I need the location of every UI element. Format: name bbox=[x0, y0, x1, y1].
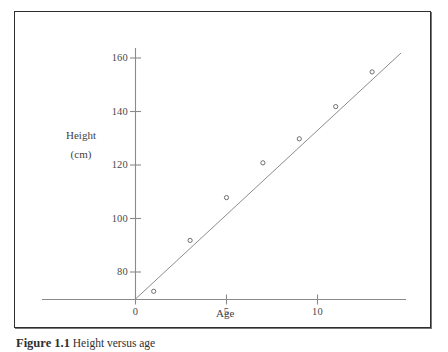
x-tick-label-0: 0 bbox=[133, 307, 138, 318]
figure-caption: Figure 1.1 Height versus age bbox=[16, 336, 436, 352]
y-tick-label-80: 80 bbox=[117, 267, 128, 278]
y-axis-title-line1: Height bbox=[47, 126, 115, 145]
regression-line bbox=[136, 53, 402, 299]
data-point bbox=[261, 161, 265, 165]
data-point bbox=[188, 238, 192, 242]
y-tick-label-160: 160 bbox=[112, 53, 128, 64]
data-point bbox=[334, 105, 338, 109]
y-tick-label-140: 140 bbox=[112, 106, 128, 117]
figure-caption-label: Figure 1.1 bbox=[16, 336, 70, 350]
y-axis-title: Height (cm) bbox=[47, 126, 115, 165]
y-tick-label-100: 100 bbox=[112, 213, 128, 224]
figure-caption-text: Height versus age bbox=[73, 337, 155, 349]
x-axis-title: Age bbox=[216, 307, 234, 319]
x-tick-label-10: 10 bbox=[312, 307, 323, 318]
y-axis-title-line2: (cm) bbox=[47, 145, 115, 164]
data-point bbox=[297, 137, 301, 141]
data-point bbox=[370, 70, 374, 74]
data-point bbox=[224, 196, 228, 200]
data-point bbox=[152, 289, 156, 293]
